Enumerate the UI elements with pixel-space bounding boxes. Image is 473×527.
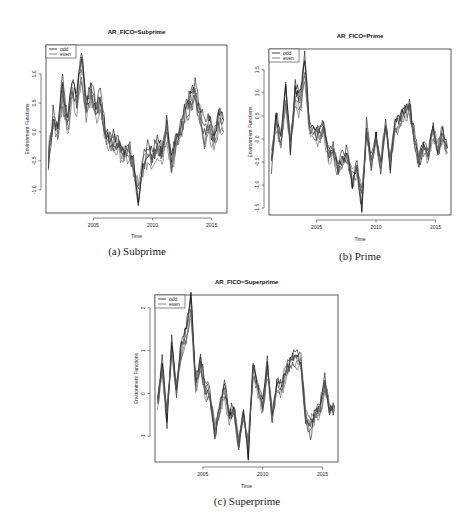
x-tick-label: 2005 [311,224,322,230]
y-tick-label: -0.5 [254,157,260,166]
series-line-odd [157,292,334,458]
series-line-even [48,82,223,189]
x-tick-label: 2015 [206,222,217,228]
figure: AR_FICO=Subprime200520102015Time-1.0-0.5… [0,0,473,527]
caption-superprime: (c) Superprime [214,495,280,507]
x-tick-label: 2010 [147,222,158,228]
legend-label-even: even [169,301,180,307]
x-tick-label: 2005 [88,222,99,228]
x-tick-label: 2010 [370,224,381,230]
y-tick-label: 1.5 [254,66,260,73]
chart-title: AR_FICO=Subprime [108,29,166,35]
y-tick-label: 0.5 [254,112,260,119]
y-tick-label: 1.0 [254,89,260,96]
x-tick-label: 2010 [257,471,268,477]
plot-frame [269,49,451,215]
legend: oddeven [46,45,76,58]
chart-prime: AR_FICO=Prime200520102015Time-1.5-1.0-0.… [247,33,451,242]
chart-superprime: AR_FICO=Superprime200520102015Time-1012E… [133,279,338,489]
legend-label-even: even [60,51,71,57]
chart-subprime: AR_FICO=Subprime200520102015Time-1.0-0.5… [24,29,227,239]
y-tick-label: 0 [140,392,146,395]
x-axis-label: Time [355,236,366,242]
figure-canvas: AR_FICO=Subprime200520102015Time-1.0-0.5… [0,0,473,527]
x-tick-label: 2015 [317,471,328,477]
y-tick-label: -1.0 [254,181,260,190]
x-axis-label: Time [131,233,142,239]
y-tick-label: -1 [140,434,146,439]
series-line-odd [48,57,223,206]
y-tick-label: 1 [140,349,146,352]
chart-title: AR_FICO=Prime [337,33,384,39]
legend-label-even: even [283,55,294,61]
y-tick-label: -1.5 [254,204,260,213]
y-tick-label: 2 [140,306,146,309]
chart-title: AR_FICO=Superprime [215,279,279,285]
y-tick-label: 1.0 [31,70,37,77]
series-line-even [48,77,223,187]
y-axis-label: Environment Functions [133,352,139,404]
x-tick-label: 2005 [197,471,208,477]
x-tick-label: 2015 [430,224,441,230]
caption-subprime: (a) Subprime [108,245,166,257]
y-axis-label: Environment Functions [247,106,253,158]
legend: oddeven [155,295,185,308]
series-line-even [271,82,447,194]
y-tick-label: 0.0 [31,128,37,135]
series-line-even [157,310,334,446]
y-tick-label: 0.0 [254,135,260,142]
y-axis-label: Environment Functions [24,103,30,155]
caption-prime: (b) Prime [339,250,381,262]
y-tick-label: 0.5 [31,99,37,106]
legend: oddeven [269,49,299,62]
x-axis-label: Time [241,483,252,489]
y-tick-label: -1.0 [31,185,37,194]
y-tick-label: -0.5 [31,156,37,165]
